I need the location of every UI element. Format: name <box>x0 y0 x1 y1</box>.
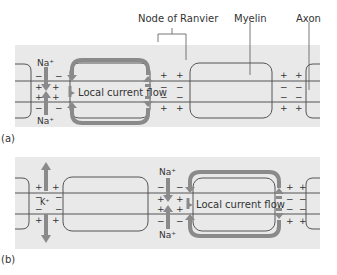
svg-text:+: + <box>35 215 43 225</box>
local-current-flow-label-b: Local current flow <box>196 199 285 210</box>
svg-text:+: + <box>299 182 307 192</box>
local-current-flow-label-a: Local current flow <box>78 87 167 98</box>
na-label-top-b: Na⁺ <box>159 167 176 177</box>
svg-text:+: + <box>286 182 294 192</box>
node-of-ranvier-label: Node of Ranvier <box>138 13 219 24</box>
svg-text:+: + <box>160 70 168 80</box>
svg-text:−: − <box>35 71 43 81</box>
svg-text:−: − <box>55 71 63 81</box>
svg-text:−: − <box>35 103 43 113</box>
svg-text:−: − <box>157 216 165 226</box>
panel-b: + + − − − − + + K⁺ − − + + + + − − Na⁺ <box>1 157 320 265</box>
svg-text:+: + <box>286 216 294 226</box>
panel-b-label: (b) <box>1 254 15 265</box>
svg-text:−: − <box>55 192 63 202</box>
svg-text:−: − <box>286 194 294 204</box>
svg-text:−: − <box>176 182 184 192</box>
svg-text:+: + <box>280 70 288 80</box>
svg-text:+: + <box>176 70 184 80</box>
myelin-label: Myelin <box>234 13 267 24</box>
panel-a: − − + + + + − − + + − − − − + + + + − − … <box>1 13 321 144</box>
svg-text:+: + <box>160 103 168 113</box>
svg-text:−: − <box>299 194 307 204</box>
svg-text:−: − <box>286 204 294 214</box>
svg-text:−: − <box>280 82 288 92</box>
svg-text:+: + <box>280 103 288 113</box>
na-label-bottom-b: Na⁺ <box>159 230 176 240</box>
na-label-bottom-a: Na⁺ <box>37 116 54 126</box>
panel-a-label: (a) <box>1 133 15 144</box>
axon-label: Axon <box>296 13 321 24</box>
svg-text:−: − <box>280 92 288 102</box>
svg-text:+: + <box>52 82 60 92</box>
k-label-b: K⁺ <box>40 198 49 207</box>
svg-text:−: − <box>295 82 303 92</box>
svg-text:+: + <box>295 103 303 113</box>
svg-text:+: + <box>299 216 307 226</box>
svg-text:+: + <box>176 103 184 113</box>
svg-text:+: + <box>35 82 43 92</box>
svg-text:+: + <box>176 204 184 214</box>
svg-text:−: − <box>295 92 303 102</box>
svg-text:−: − <box>176 216 184 226</box>
svg-text:+: + <box>52 215 60 225</box>
svg-text:−: − <box>55 103 63 113</box>
svg-text:+: + <box>52 182 60 192</box>
svg-text:+: + <box>52 92 60 102</box>
svg-text:+: + <box>157 194 165 204</box>
svg-text:+: + <box>35 92 43 102</box>
svg-text:−: − <box>55 204 63 214</box>
svg-text:+: + <box>295 70 303 80</box>
svg-text:−: − <box>176 92 184 102</box>
svg-text:−: − <box>299 204 307 214</box>
svg-text:+: + <box>35 182 43 192</box>
svg-text:+: + <box>176 194 184 204</box>
saltatory-conduction-diagram: − − + + + + − − + + − − − − + + + + − − … <box>0 0 337 275</box>
na-label-top-a: Na⁺ <box>37 58 54 68</box>
svg-text:−: − <box>176 82 184 92</box>
svg-text:−: − <box>157 182 165 192</box>
svg-text:+: + <box>157 204 165 214</box>
